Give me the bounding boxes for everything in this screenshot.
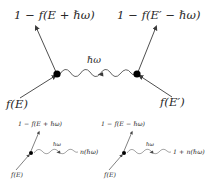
sub-right-incoming-line — [109, 155, 122, 170]
main-outgoing-left-line — [36, 27, 56, 72]
main-incoming-left-line — [20, 76, 55, 98]
sub-diagram-left-group — [16, 132, 78, 170]
sub-right-vertex — [122, 151, 126, 155]
sub-right-outgoing-line — [124, 132, 132, 151]
sub-left-vertex — [29, 151, 33, 155]
feynman-diagram-figure: 1 − f(E + ℏω) 1 − f(E′ − ℏω) ℏω f(E) f(E… — [0, 0, 206, 189]
sub-left-incoming-line — [16, 155, 29, 170]
main-outgoing-right-line — [138, 27, 156, 72]
main-top-right-label: 1 − f(E′ − ℏω) — [117, 10, 201, 22]
main-phonon-label: ℏω — [87, 55, 101, 65]
main-top-left-label: 1 − f(E + ℏω) — [14, 10, 95, 22]
main-incoming-right-line — [140, 76, 172, 97]
sub-right-bottom-label: f(E) — [104, 172, 116, 178]
sub-left-phonon-wave — [34, 149, 78, 154]
sub-right-top-label: 1 − f(E − ℏω) — [101, 121, 145, 127]
sub-right-phonon-label: ℏω — [146, 142, 154, 147]
sub-left-phonon-label: ℏω — [53, 142, 61, 147]
main-bottom-left-label: f(E) — [6, 99, 28, 111]
main-right-vertex — [133, 70, 140, 77]
sub-left-bottom-label: f(E) — [11, 172, 23, 178]
sub-left-outgoing-line — [31, 132, 39, 151]
sub-right-phonon-wave — [127, 149, 171, 154]
sub-left-top-label: 1 − f(E + ℏω) — [18, 121, 62, 127]
main-bottom-right-label: f(E′) — [160, 97, 185, 109]
main-left-vertex — [53, 70, 60, 77]
sub-right-right-label: 1 + n(ℏω) — [173, 149, 205, 155]
sub-left-right-label: n(ℏω) — [80, 149, 98, 155]
main-phonon-wave — [60, 69, 135, 76]
sub-diagram-right-group — [109, 132, 171, 170]
